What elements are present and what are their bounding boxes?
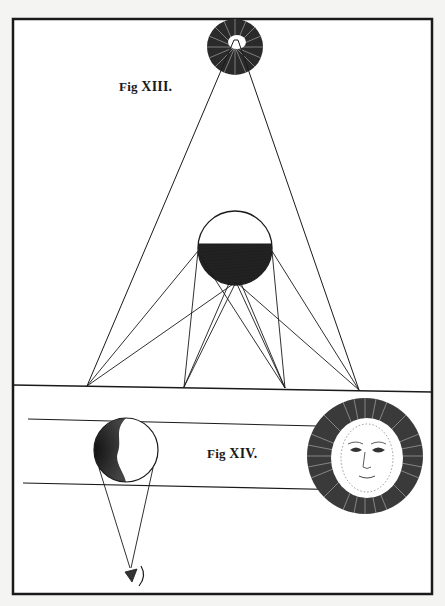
fig14-label-prefix: Fig [207,446,226,461]
fig13-label: Fig XIII. [119,79,172,95]
light-source-icon [207,19,263,75]
fig13-label-prefix: Fig [119,79,138,94]
sphere-icon [198,211,272,285]
sun-face-icon [307,398,423,514]
engraving-plate [0,0,445,606]
fig14-label: Fig XIV. [207,446,258,462]
fig13-label-numeral: XIII. [141,79,172,94]
fig14-label-numeral: XIV. [229,446,257,461]
